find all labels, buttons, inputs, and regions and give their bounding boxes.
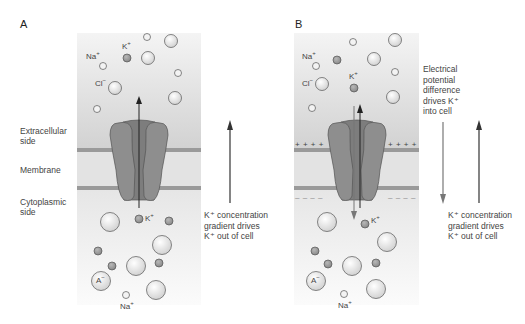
cl-label: Cl− xyxy=(95,79,106,88)
k-label: K+ xyxy=(122,42,131,51)
anion-icon xyxy=(153,236,172,255)
panel-a-letter: A xyxy=(20,18,27,30)
negative-charges-left: – – – – xyxy=(295,193,323,202)
cl-ion-icon xyxy=(142,52,155,65)
k-ion-icon xyxy=(135,215,143,223)
panel-b-letter: B xyxy=(295,18,302,30)
na-label: Na+ xyxy=(86,52,100,61)
na-ion-icon xyxy=(341,291,348,298)
cl-ion-icon xyxy=(109,82,122,95)
na-ion-icon xyxy=(144,34,151,41)
k-label: K+ xyxy=(349,72,358,81)
na-label: Na+ xyxy=(120,302,134,311)
a-minus-label: A− xyxy=(311,276,320,285)
cl-ion-icon xyxy=(316,78,329,91)
concentration-gradient-note: K⁺ concentration gradient drives K⁺ out … xyxy=(448,210,512,242)
na-ion-icon xyxy=(175,70,182,77)
k-ion-icon xyxy=(123,54,131,62)
note-line-5: into cell xyxy=(423,106,460,117)
note-line-3: K⁺ out of cell xyxy=(204,231,268,242)
extracellular-line-1: Extracellular xyxy=(20,126,67,136)
k-label: K+ xyxy=(371,216,380,225)
na-ion-icon xyxy=(313,63,320,70)
electrical-arrowhead xyxy=(440,194,446,204)
na-ion-icon xyxy=(392,69,399,76)
k-ion-icon xyxy=(361,220,369,228)
anion-icon xyxy=(101,213,120,232)
extracellular-line-2: side xyxy=(20,136,67,146)
na-ion-icon xyxy=(100,63,107,70)
positive-charges-right: + + + + xyxy=(388,140,417,149)
k-ion-icon xyxy=(324,260,332,268)
a-minus-label: A− xyxy=(96,276,105,285)
extracellular-side-label: Extracellular side xyxy=(20,126,67,146)
k-ion-icon xyxy=(108,262,116,270)
na-label: Na+ xyxy=(302,52,316,61)
k-ion-icon xyxy=(372,259,380,267)
concentration-gradient-note: K⁺ concentration gradient drives K⁺ out … xyxy=(204,210,268,242)
anion-icon xyxy=(343,257,362,276)
na-ion-icon xyxy=(94,106,101,113)
anion-icon xyxy=(147,281,166,300)
cl-label: Cl− xyxy=(302,79,313,88)
k-ion-icon xyxy=(165,217,173,225)
cl-ion-icon xyxy=(389,34,402,47)
positive-charges-left: + + + + xyxy=(295,140,324,149)
membrane-label: Membrane xyxy=(20,165,61,175)
cl-ion-icon xyxy=(368,53,381,66)
k-ion-icon xyxy=(155,259,163,267)
cytoplasmic-line-2: side xyxy=(20,207,66,217)
note-line-3: difference xyxy=(423,85,460,96)
k-label: K+ xyxy=(145,214,154,223)
anion-icon xyxy=(367,280,386,299)
na-ion-icon xyxy=(309,105,316,112)
panel-a-graphics xyxy=(77,33,233,305)
electrical-potential-note: Electrical potential difference drives K… xyxy=(423,64,460,117)
k-channel xyxy=(328,120,386,201)
anion-icon xyxy=(318,213,337,232)
cl-ion-icon xyxy=(165,35,178,48)
concentration-arrowhead xyxy=(476,120,482,130)
note-line-1: K⁺ concentration xyxy=(204,210,268,221)
k-ion-icon xyxy=(311,247,319,255)
note-line-3: K⁺ out of cell xyxy=(448,231,512,242)
cl-ion-icon xyxy=(387,91,400,104)
diagram-graphics xyxy=(0,0,525,324)
note-line-1: K⁺ concentration xyxy=(448,210,512,221)
cl-ion-icon xyxy=(169,92,182,105)
negative-charges-right: – – – – xyxy=(388,193,416,202)
note-line-4: drives K⁺ xyxy=(423,96,460,107)
na-ion-icon xyxy=(350,39,357,46)
anion-icon xyxy=(378,233,397,252)
k-ion-icon xyxy=(350,84,358,92)
cytoplasmic-line-1: Cytoplasmic xyxy=(20,197,66,207)
cytoplasmic-side-label: Cytoplasmic side xyxy=(20,197,66,217)
anion-icon xyxy=(127,257,146,276)
note-line-1: Electrical xyxy=(423,64,460,75)
concentration-arrowhead xyxy=(227,120,233,130)
note-line-2: gradient drives xyxy=(204,221,268,232)
na-ion-icon xyxy=(123,292,130,299)
k-ion-icon xyxy=(333,56,341,64)
note-line-2: gradient drives xyxy=(448,221,512,232)
na-label: Na+ xyxy=(338,301,352,310)
note-line-2: potential xyxy=(423,75,460,86)
k-ion-icon xyxy=(94,247,102,255)
